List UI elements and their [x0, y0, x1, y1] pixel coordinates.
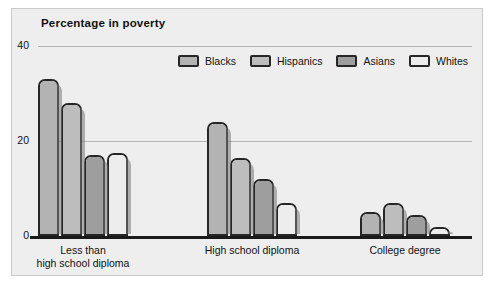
bar-hispanics-group-2[interactable] [230, 158, 251, 236]
chart-figure: Percentage in poverty Blacks Hispanics A… [0, 0, 493, 289]
bar-asians-group-3[interactable] [406, 215, 427, 236]
bar-fill [209, 124, 226, 234]
bar-asians-group-1[interactable] [84, 155, 105, 236]
x-axis-line [30, 236, 472, 239]
bar-hispanics-group-3[interactable] [383, 203, 404, 236]
bar-blacks-group-1[interactable] [38, 79, 59, 236]
bar-fill [278, 205, 295, 234]
bar-fill [40, 81, 57, 234]
bar-hispanics-group-1[interactable] [61, 103, 82, 236]
y-tick-label-20: 20 [5, 134, 29, 146]
bar-blacks-group-3[interactable] [360, 212, 381, 236]
y-tick-label-0: 0 [5, 229, 29, 241]
bar-fill [385, 205, 402, 234]
x-category-label-1: Less than high school diploma [0, 244, 173, 270]
bar-whites-group-3[interactable] [429, 227, 450, 237]
y-tick-label-40: 40 [5, 39, 29, 51]
bar-fill [431, 229, 448, 235]
bar-whites-group-1[interactable] [107, 153, 128, 236]
bar-fill [232, 160, 249, 234]
bar-fill [86, 157, 103, 234]
bar-fill [408, 217, 425, 234]
bar-fill [109, 155, 126, 234]
bar-fill [362, 214, 379, 234]
bar-whites-group-2[interactable] [276, 203, 297, 236]
x-category-label-3: College degree [315, 244, 493, 257]
bar-fill [255, 181, 272, 234]
gridline-20 [38, 141, 472, 142]
bar-fill [63, 105, 80, 234]
chart-title: Percentage in poverty [41, 17, 165, 29]
bar-blacks-group-2[interactable] [207, 122, 228, 236]
gridline-40 [38, 46, 472, 47]
bar-asians-group-2[interactable] [253, 179, 274, 236]
